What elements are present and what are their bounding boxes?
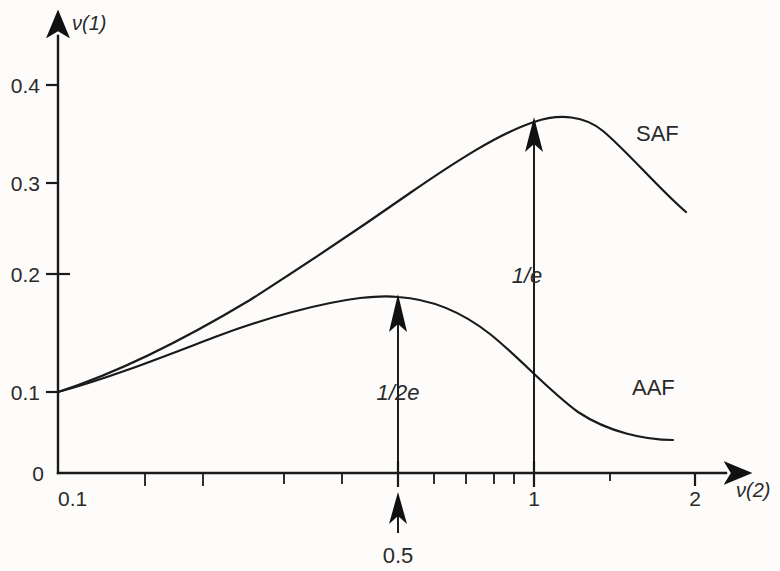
y-axis-title: ν(1) (72, 12, 106, 34)
y-tick-label-0.1: 0.1 (11, 381, 40, 404)
x-tick-label-1: 1 (528, 487, 540, 510)
series-label-saf: SAF (636, 121, 679, 146)
y-axis (46, 36, 70, 473)
y-tick-label-0: 0 (32, 462, 44, 485)
x-axis-title: ν(2) (736, 479, 770, 501)
series-label-aaf: AAF (632, 375, 675, 400)
chart-plot: 0.4 0.3 0.2 0.1 0 0.1 1 2 ν(1) ν(2) SAF … (0, 0, 780, 571)
x-tick-label-2: 2 (689, 487, 701, 510)
x-tick-label-0.1: 0.1 (58, 487, 87, 510)
y-tick-label-0.2: 0.2 (11, 263, 40, 286)
y-tick-label-0.3: 0.3 (11, 172, 40, 195)
annotation-aaf-peak: 1/2e (377, 380, 420, 405)
y-tick-label-0.4: 0.4 (11, 74, 41, 97)
curve-saf (58, 117, 686, 392)
annotation-saf-peak: 1/e (512, 263, 543, 288)
x-axis-marker-arrow (389, 492, 407, 533)
x-axis (58, 461, 726, 487)
curve-aaf (58, 296, 673, 440)
saf-peak-arrow (525, 117, 543, 470)
figure-canvas: 0.4 0.3 0.2 0.1 0 0.1 1 2 ν(1) ν(2) SAF … (0, 0, 780, 571)
annotation-x-marker: 0.5 (383, 543, 414, 568)
